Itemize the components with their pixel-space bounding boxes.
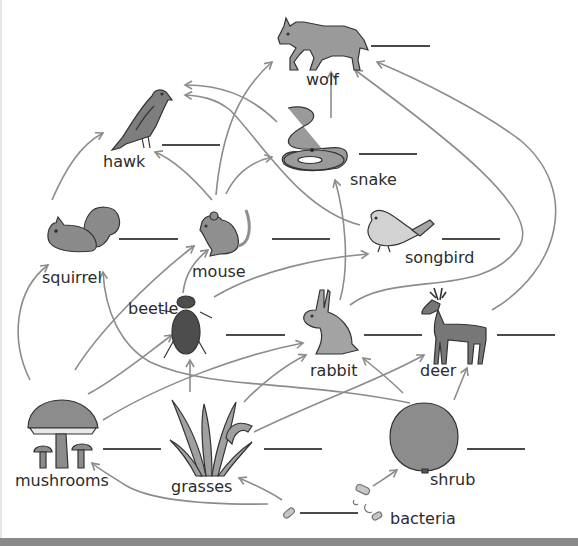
label-hawk: hawk — [103, 154, 145, 170]
blank-mushrooms[interactable] — [103, 448, 161, 450]
label-rabbit: rabbit — [310, 363, 357, 379]
bacteria-icon — [282, 483, 382, 521]
food-web-diagram: wolf hawk snake squirrel mouse songbird … — [0, 0, 578, 546]
blank-grasses[interactable] — [264, 448, 322, 450]
arrow-rabbit-snake — [335, 180, 345, 300]
arrow-mouse-snake — [226, 157, 272, 194]
squirrel-icon — [48, 207, 120, 251]
snake-icon — [282, 107, 347, 171]
arrow-bacteria-grasses — [239, 478, 282, 500]
blank-deer[interactable] — [497, 334, 555, 336]
blank-squirrel[interactable] — [119, 238, 178, 240]
label-deer: deer — [420, 363, 456, 379]
wolf-icon — [278, 18, 368, 70]
arrow-mouse-wolf — [216, 62, 272, 195]
arrow-deer-wolf — [377, 62, 556, 310]
label-grasses: grasses — [171, 479, 232, 495]
deer-icon — [422, 288, 486, 364]
arrow-bacteria-shrub — [373, 470, 397, 486]
blank-snake[interactable] — [359, 153, 417, 155]
arrow-squirrel-hawk — [52, 133, 103, 200]
label-mouse: mouse — [192, 264, 246, 280]
label-mushrooms: mushrooms — [15, 473, 109, 489]
hawk-icon — [112, 90, 172, 150]
blank-rabbit[interactable] — [364, 334, 422, 336]
mushroom-icon — [28, 400, 98, 468]
blank-beetle[interactable] — [226, 334, 285, 336]
grass-icon — [170, 400, 252, 476]
arrow-mouse-hawk — [155, 152, 212, 200]
blank-hawk[interactable] — [162, 144, 220, 146]
label-songbird: songbird — [405, 250, 474, 266]
label-shrub: shrub — [430, 472, 475, 488]
label-snake: snake — [350, 172, 397, 188]
rabbit-icon — [304, 290, 358, 354]
label-wolf: wolf — [306, 72, 339, 88]
arrow-mushrooms-beetle — [88, 335, 172, 394]
mouse-icon — [200, 210, 249, 256]
label-squirrel: squirrel — [42, 270, 102, 286]
blank-shrub[interactable] — [467, 448, 525, 450]
songbird-icon — [368, 210, 434, 252]
blank-songbird[interactable] — [442, 238, 500, 240]
bottom-border — [0, 538, 578, 546]
label-bacteria: bacteria — [390, 511, 456, 527]
arrow-snake-hawk — [185, 85, 277, 122]
shrub-icon — [390, 403, 458, 473]
blank-wolf[interactable] — [371, 45, 430, 47]
arrow-grasses-rabbit — [244, 355, 306, 402]
blank-mouse[interactable] — [272, 238, 330, 240]
label-beetle: beetle — [128, 301, 178, 317]
blank-bacteria[interactable] — [300, 512, 358, 514]
